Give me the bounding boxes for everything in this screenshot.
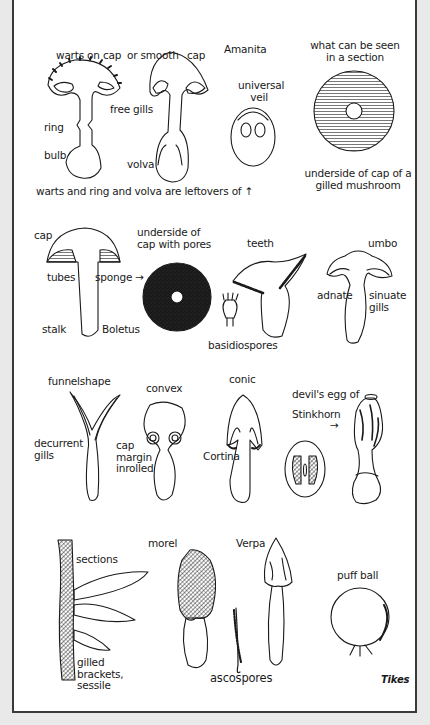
label-puffball: puff ball xyxy=(337,570,378,582)
label-leftovers-note: warts and ring and volva are leftovers o… xyxy=(36,186,253,198)
conic-drawing xyxy=(227,395,262,503)
label-cap: cap xyxy=(187,50,205,62)
label-free-gills: free gills xyxy=(110,104,153,116)
stinkhorn-arrow: → xyxy=(330,420,339,432)
ascospore-drawing xyxy=(234,608,241,673)
toothed-fungus-drawing xyxy=(233,254,306,337)
label-conic: conic xyxy=(229,374,256,386)
mushroom-illustrations xyxy=(0,0,430,725)
label-universal-veil: universal veil xyxy=(238,80,280,103)
label-verpa: Verpa xyxy=(236,538,265,550)
label-umbo: umbo xyxy=(368,238,397,250)
label-morel: morel xyxy=(148,538,177,550)
label-cortina: Cortina xyxy=(203,451,240,463)
basidiospores-drawing xyxy=(223,293,238,326)
label-ring: ring xyxy=(44,122,64,134)
label-warts-on-cap: warts on cap xyxy=(56,50,121,62)
label-amanita: Amanita xyxy=(224,44,267,56)
stinkhorn-egg-section-drawing xyxy=(285,441,325,497)
label-convex: convex xyxy=(146,383,182,395)
label-boletus: Boletus xyxy=(102,324,140,336)
verpa-drawing xyxy=(264,538,292,665)
label-funnelshape: funnelshape xyxy=(48,376,111,388)
label-or-smooth: or smooth xyxy=(127,50,179,62)
morel-drawing xyxy=(178,550,216,668)
label-adnate: adnate xyxy=(317,290,353,302)
artist-signature: Tikes xyxy=(381,674,409,685)
label-basidiospores: basidiospores xyxy=(208,340,277,352)
label-volva: volva xyxy=(127,159,154,171)
label-cap-margin-inrolled: cap margin inrolled xyxy=(116,440,156,475)
label-ascospores: ascospores xyxy=(210,672,272,685)
universal-veil-drawing xyxy=(231,108,275,166)
label-stinkhorn: devil's egg of Stinkhorn xyxy=(292,385,362,425)
label-bulb: bulb xyxy=(44,150,66,162)
label-tubes: tubes xyxy=(47,272,75,284)
label-boletus-cap: cap xyxy=(34,230,52,242)
label-gill-section-caption: underside of cap of a gilled mushroom xyxy=(300,168,416,191)
label-gilled-brackets: gilled brackets, sessile xyxy=(77,657,149,692)
label-gill-section-heading: what can be seen in a section xyxy=(305,40,405,63)
label-teeth: teeth xyxy=(247,238,274,250)
gill-section-drawing xyxy=(314,71,394,151)
label-sections: sections xyxy=(76,554,118,566)
label-decurrent-gills: decurrent gills xyxy=(34,438,78,461)
label-pores: underside of cap with pores xyxy=(137,227,217,250)
pores-disc-drawing xyxy=(143,263,211,331)
label-stalk: stalk xyxy=(42,324,66,336)
puffball-drawing xyxy=(331,588,389,656)
label-sponge: sponge → xyxy=(95,272,144,284)
label-sinuate-gills: sinuate gills xyxy=(369,290,411,313)
amanita-smooth-drawing xyxy=(150,52,208,182)
